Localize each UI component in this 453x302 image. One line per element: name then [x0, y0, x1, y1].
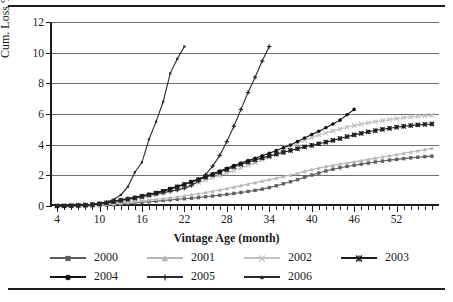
x-tick-minor	[425, 206, 426, 210]
x-tick-minor	[248, 206, 249, 210]
y-tick-label: 4	[14, 139, 44, 151]
legend-marker-icon	[147, 271, 183, 284]
x-tick-minor	[241, 206, 242, 210]
legend-row: 2000200120022003	[50, 248, 440, 267]
legend-item-2006[interactable]: 2006	[244, 267, 341, 286]
x-tick-minor	[255, 206, 256, 210]
x-tick-minor	[276, 206, 277, 210]
data-point-marker	[148, 138, 150, 140]
y-axis-tick-labels: 024681012	[12, 22, 44, 206]
x-tick-major	[312, 206, 313, 212]
x-tick-minor	[404, 206, 405, 210]
legend-key-2006	[244, 271, 280, 283]
x-tick-minor	[177, 206, 178, 210]
x-tick-label: 16	[136, 213, 148, 225]
y-tick-label: 10	[14, 47, 44, 59]
x-tick-minor	[213, 206, 214, 210]
y-tick-label: 2	[14, 169, 44, 181]
legend-key-2003	[341, 252, 377, 264]
x-tick-major	[354, 206, 355, 212]
x-tick-minor	[121, 206, 122, 210]
y-tick-label: 8	[14, 77, 44, 89]
y-tick-label: 12	[14, 16, 44, 28]
x-tick-minor	[290, 206, 291, 210]
x-tick-minor	[128, 206, 129, 210]
legend-marker-icon	[341, 252, 377, 265]
x-tick-minor	[319, 206, 320, 210]
legend-marker-icon	[50, 252, 86, 265]
x-tick-minor	[368, 206, 369, 210]
x-tick-minor	[163, 206, 164, 210]
x-tick-major	[184, 206, 185, 212]
x-tick-minor	[78, 206, 79, 210]
x-axis-tick-labels: 41016222834404652	[50, 213, 450, 229]
x-tick-minor	[333, 206, 334, 210]
x-tick-major	[227, 206, 228, 212]
x-tick-label: 28	[221, 213, 233, 225]
data-point-marker	[127, 186, 129, 188]
x-tick-minor	[418, 206, 419, 210]
x-tick-label: 40	[306, 213, 318, 225]
x-tick-minor	[64, 206, 65, 210]
x-tick-label: 22	[179, 213, 191, 225]
y-tick-label: 0	[14, 200, 44, 212]
x-tick-minor	[298, 206, 299, 210]
legend-marker-icon	[244, 271, 280, 284]
figure-top-rule	[8, 5, 445, 7]
x-tick-minor	[326, 206, 327, 210]
legend-label: 2006	[280, 269, 312, 284]
x-tick-minor	[107, 206, 108, 210]
series-line	[57, 47, 184, 206]
x-axis-title: Vintage Age (month)	[0, 231, 453, 246]
series-layer	[50, 22, 439, 206]
x-tick-minor	[283, 206, 284, 210]
x-tick-minor	[114, 206, 115, 210]
x-tick-minor	[199, 206, 200, 210]
x-tick-minor	[234, 206, 235, 210]
plot-area	[50, 22, 439, 206]
legend-item-2003[interactable]: 2003	[341, 248, 438, 267]
data-point-marker	[169, 72, 171, 74]
figure-bottom-rule	[8, 288, 445, 290]
x-tick-minor	[220, 206, 221, 210]
x-tick-minor	[411, 206, 412, 210]
x-tick-minor	[347, 206, 348, 210]
data-point-marker	[120, 194, 122, 196]
legend-key-2000	[50, 252, 86, 264]
legend-label: 2000	[86, 250, 118, 265]
x-tick-minor	[305, 206, 306, 210]
x-tick-minor	[191, 206, 192, 210]
x-tick-minor	[262, 206, 263, 210]
x-tick-label: 10	[94, 213, 106, 225]
x-tick-minor	[71, 206, 72, 210]
x-tick-minor	[361, 206, 362, 210]
x-tick-major	[57, 206, 58, 212]
x-tick-major	[269, 206, 270, 212]
data-point-marker	[183, 45, 185, 47]
data-point-marker	[141, 161, 143, 163]
x-tick-minor	[170, 206, 171, 210]
x-tick-label: 34	[264, 213, 276, 225]
data-point-marker	[98, 202, 100, 204]
series-2006	[50, 22, 439, 206]
data-point-marker	[162, 101, 164, 103]
legend-label: 2001	[183, 250, 215, 265]
y-tick-label: 6	[14, 108, 44, 120]
legend-key-2002	[244, 252, 280, 264]
legend-item-2002[interactable]: 2002	[244, 248, 341, 267]
legend-label: 2005	[183, 269, 215, 284]
legend-marker-icon	[244, 252, 280, 265]
legend-item-2004[interactable]: 2004	[50, 267, 147, 286]
data-point-marker	[134, 171, 136, 173]
x-tick-minor	[156, 206, 157, 210]
legend-item-2001[interactable]: 2001	[147, 248, 244, 267]
legend-item-2005[interactable]: 2005	[147, 267, 244, 286]
x-tick-major	[397, 206, 398, 212]
legend-key-2001	[147, 252, 183, 264]
x-axis-ticks	[50, 206, 439, 213]
data-point-marker	[155, 121, 157, 123]
chart-figure: Cum. Loss % 024681012 41016222834404652 …	[0, 0, 453, 302]
legend-key-2005	[147, 271, 183, 283]
x-tick-label: 46	[348, 213, 360, 225]
legend-item-2000[interactable]: 2000	[50, 248, 147, 267]
